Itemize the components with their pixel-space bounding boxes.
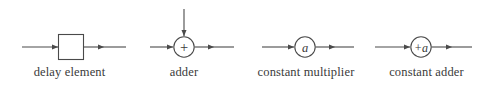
constant-multiplier-coefficient-glyph: a xyxy=(302,41,308,55)
constant-adder-symbol-group: +a xyxy=(375,37,472,57)
delay-element-caption: delay element xyxy=(0,66,139,79)
adder-plus-glyph: + xyxy=(180,39,188,55)
constant-multiplier-symbol-group: a xyxy=(262,37,354,57)
signal-flow-legend-figure: + a +a delay element adder constant mult… xyxy=(0,0,489,89)
delay-element-box xyxy=(59,35,84,60)
constant-multiplier-caption: constant multiplier xyxy=(239,66,373,79)
adder-caption: adder xyxy=(125,66,243,79)
delay-element-symbol-group xyxy=(22,35,126,60)
constant-adder-caption: constant adder xyxy=(364,66,489,79)
constant-adder-offset-glyph: +a xyxy=(414,41,428,55)
adder-symbol-group: + xyxy=(150,9,234,57)
